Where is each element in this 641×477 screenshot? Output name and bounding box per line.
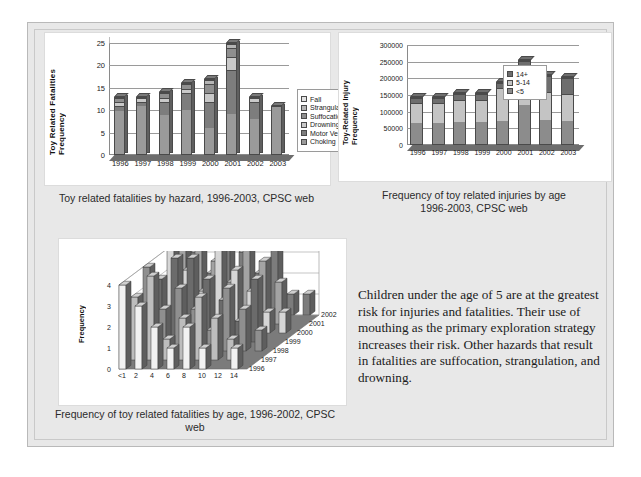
- chart1-bar-group[interactable]: 1999: [181, 43, 194, 155]
- chart1-bar-3d-side: [237, 41, 240, 153]
- chart3-bar-side: [262, 326, 267, 351]
- chart3-svg: [89, 251, 339, 391]
- chart1-stacked-bar[interactable]: [114, 97, 125, 155]
- chart2-x-tick-label: 2003: [560, 149, 576, 156]
- chart2-legend-item[interactable]: 5-14: [507, 79, 543, 86]
- body-paragraph: Children under the age of 5 are at the g…: [358, 287, 606, 386]
- chart2-legend-label: 5-14: [516, 79, 530, 86]
- chart3-bar-front[interactable]: [199, 348, 206, 369]
- chart1-legend-swatch: [301, 122, 307, 128]
- chart1-y-axis-label: Toy Related Fatalities Frequency: [51, 43, 63, 155]
- chart1-legend-label: Drowning: [310, 121, 340, 128]
- chart1-bar-segment: [205, 84, 214, 93]
- chart2-y-tick-label: 150000: [380, 92, 403, 99]
- chart2-legend-swatch: [507, 71, 513, 77]
- chart1-bar-group[interactable]: 2002: [249, 43, 262, 155]
- chart2-stacked-bar[interactable]: [410, 97, 423, 145]
- chart1-stacked-bar[interactable]: [136, 97, 147, 155]
- chart2-caption-line2: 1996-2003, CPSC web: [338, 202, 610, 215]
- chart3-plot-area: 01234<1246810121419961997199819992000200…: [89, 251, 339, 391]
- chart3-z-tick-label: 2000: [297, 329, 313, 336]
- chart3-z-tick-label: 2002: [321, 311, 337, 318]
- chart3-bar-front[interactable]: [255, 330, 262, 351]
- chart1-bar-group[interactable]: 1996: [114, 43, 127, 155]
- chart3-bar-front[interactable]: [151, 327, 158, 369]
- chart3-caption-line1: Frequency of toy related fatalities by a…: [40, 408, 350, 421]
- chart3-bar-side: [286, 308, 291, 333]
- chart2-bar-segment: [562, 78, 573, 94]
- chart2-x-tick-label: 1999: [474, 149, 490, 156]
- chart2-plot-area: 050000100000150000200000250000300000 199…: [407, 45, 579, 145]
- chart2-bar-group[interactable]: 2003: [561, 45, 576, 145]
- chart1-bar-group[interactable]: 2001: [226, 43, 239, 155]
- chart2-bar-segment: [540, 120, 551, 144]
- chart2-x-tick-label: 2000: [496, 149, 512, 156]
- chart1-stacked-bar[interactable]: [204, 79, 215, 155]
- chart1-bar-group[interactable]: 2000: [204, 43, 217, 155]
- chart2-y-tick-label: 0: [399, 142, 403, 149]
- chart1-bar-group[interactable]: 1998: [159, 43, 172, 155]
- chart3-bar-front[interactable]: [183, 327, 190, 369]
- chart3-bar-front[interactable]: [211, 318, 218, 360]
- chart3-bar-front[interactable]: [135, 306, 142, 369]
- chart1-bar-segment: [182, 110, 191, 154]
- chart2-bar-group[interactable]: 1996: [410, 45, 425, 145]
- chart-fatalities-by-age-3d: Frequency 01234<124681012141996199719981…: [58, 238, 347, 406]
- chart3-y-tick-label: 0: [107, 366, 111, 373]
- chart-injuries-by-age: Toy-Related Injury Frequency 05000010000…: [338, 32, 612, 182]
- chart1-legend-label: Choking: [310, 138, 336, 145]
- chart1-bar-segment: [205, 128, 214, 154]
- chart1-stacked-bar[interactable]: [226, 43, 237, 155]
- chart1-x-tick-label: 1998: [157, 159, 174, 168]
- chart3-bar-side: [174, 344, 179, 369]
- chart2-stacked-bar[interactable]: [453, 93, 466, 145]
- chart1-bar-group[interactable]: 1997: [136, 43, 149, 155]
- chart1-y-tick-label: 0: [101, 151, 105, 160]
- chart2-bars: 19961997199819992000200120022003: [407, 45, 579, 145]
- chart2-y-tick-label: 50000: [384, 125, 403, 132]
- chart2-bar-segment: [454, 100, 465, 122]
- chart2-bar-group[interactable]: 1997: [432, 45, 447, 145]
- chart3-caption: Frequency of toy related fatalities by a…: [40, 408, 350, 434]
- chart2-x-tick-label: 1998: [453, 149, 469, 156]
- chart3-bar-front[interactable]: [167, 348, 174, 369]
- chart1-bar-segment: [205, 93, 214, 102]
- chart2-stacked-bar[interactable]: [475, 93, 488, 145]
- chart3-y-tick-label: 3: [107, 303, 111, 310]
- chart1-stacked-bar[interactable]: [249, 97, 260, 155]
- chart2-stacked-bar[interactable]: [561, 77, 574, 145]
- chart3-bar-front[interactable]: [303, 294, 310, 315]
- chart2-bar-group[interactable]: 1999: [475, 45, 490, 145]
- chart2-stacked-bar[interactable]: [432, 97, 445, 145]
- chart3-bar-front[interactable]: [231, 348, 238, 369]
- chart1-bar-group[interactable]: 2003: [271, 43, 284, 155]
- chart2-x-tick-label: 2001: [517, 149, 533, 156]
- chart3-bar-side: [206, 344, 211, 369]
- chart1-bar-3d-side: [192, 81, 195, 153]
- chart3-bar-side: [218, 314, 223, 360]
- chart1-stacked-bar[interactable]: [159, 92, 170, 155]
- chart2-bar-group[interactable]: 1998: [453, 45, 468, 145]
- chart3-x-tick-label: 8: [182, 372, 186, 379]
- chart1-legend-swatch: [301, 130, 307, 136]
- chart1-stacked-bar[interactable]: [181, 83, 192, 155]
- chart1-bar-segment: [160, 115, 169, 154]
- chart1-legend-swatch: [301, 105, 307, 111]
- chart3-bar-side: [190, 323, 195, 369]
- chart2-x-tick-label: 2002: [539, 149, 555, 156]
- chart2-bar-3d-top: [453, 89, 470, 93]
- chart1-bar-segment: [227, 114, 236, 154]
- chart3-bar-front[interactable]: [279, 312, 286, 333]
- chart2-legend-item[interactable]: 14+: [507, 71, 543, 78]
- chart1-y-tick-label: 15: [97, 83, 105, 92]
- chart2-legend-swatch: [507, 80, 513, 86]
- chart2-bar-3d-top: [561, 73, 578, 77]
- chart2-legend-item[interactable]: <5: [507, 88, 543, 95]
- chart3-bar-front[interactable]: [119, 285, 126, 369]
- chart2-bar-segment: [433, 123, 444, 144]
- chart1-bar-3d-side: [147, 95, 150, 153]
- chart1-stacked-bar[interactable]: [271, 106, 282, 155]
- chart3-y-tick-label: 1: [107, 345, 111, 352]
- chart3-caption-line2: web: [40, 421, 350, 434]
- chart3-x-tick-label: 4: [150, 372, 154, 379]
